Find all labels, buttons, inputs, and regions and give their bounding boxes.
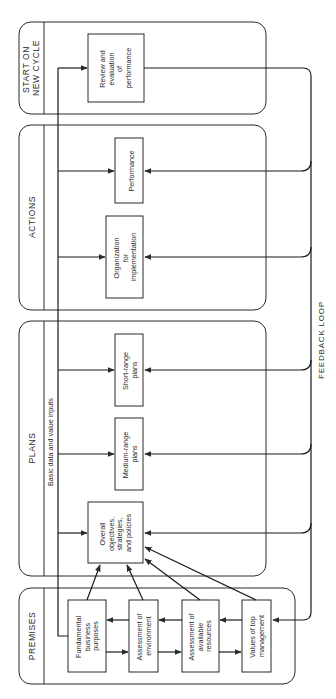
strategic-planning-cycle-diagram: START ON NEW CYCLE ACTIONS PLANS PREMISE… [0,0,336,699]
box-short-range-text: Short-range plans [121,350,139,390]
box-fundamental-text: Fundamental business purposes [74,614,100,658]
input-line [58,68,68,636]
panel-title-actions: ACTIONS [27,196,37,238]
input-line-label: Basic data and value inputs [46,398,55,486]
panel-title-start: START ON NEW CYCLE [21,40,41,96]
box-medium-range-text: Medium-range plans [121,430,139,478]
panel-title-premises: PREMISES [27,612,37,661]
box-performance-text: Performance [127,150,136,191]
panel-title-plans: PLANS [27,433,37,464]
box-review-text: Review and evaluation of performance [98,48,133,88]
box-environment-text: Assessment of environment [135,611,153,660]
box-overall-text: Overall objectives, strategies, and poli… [98,514,133,552]
box-values-text: Values of top management [248,614,266,657]
feedback-loop-line [144,68,311,620]
feedback-loop-label: FEEDBACK LOOP [317,301,326,379]
box-resources-text: Assessment of available resources [187,611,213,660]
box-organization-text: Organization for implementation [112,233,138,282]
